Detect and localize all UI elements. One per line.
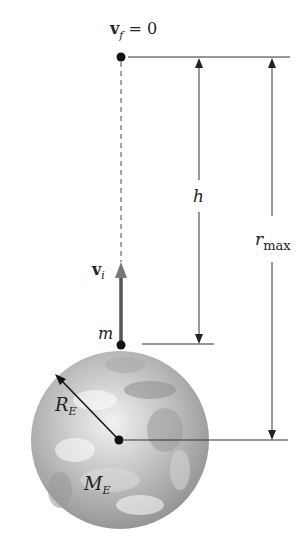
top-point	[117, 53, 126, 62]
height-label: h	[193, 186, 204, 206]
rmax-label: rmax	[255, 229, 291, 253]
initial-velocity-arrow	[115, 262, 127, 345]
escape-velocity-diagram: vf = 0 vi m h rmax RE ME	[0, 0, 308, 560]
mass-label: m	[98, 324, 113, 343]
final-velocity-label: vf = 0	[109, 19, 157, 42]
mass-point	[117, 341, 126, 350]
initial-velocity-label: vi	[91, 260, 105, 282]
